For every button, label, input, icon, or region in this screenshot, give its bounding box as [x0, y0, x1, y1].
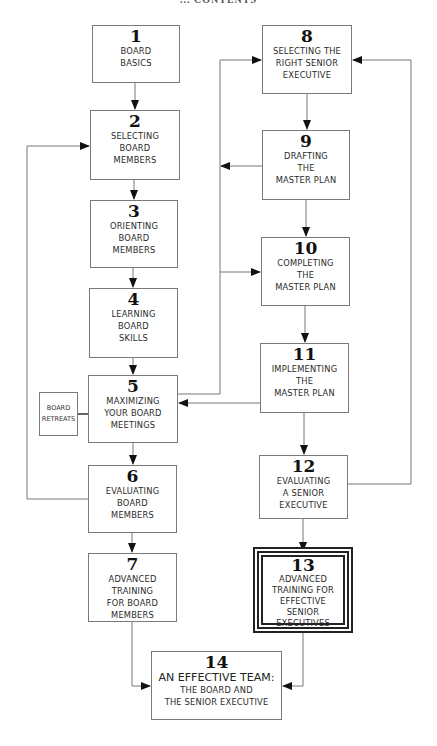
step-label: TRAINING [89, 585, 176, 597]
step-label: ADVANCED [263, 574, 343, 585]
step-13-advanced-training-senior-executives: 13 ADVANCED TRAINING FOR EFFECTIVE SENIO… [253, 547, 353, 633]
step-label: A SENIOR [260, 487, 347, 499]
step-label: BOARD [93, 45, 179, 57]
step-label: LEARNING [90, 308, 177, 320]
step-label: BOARD [89, 497, 176, 509]
step-label: BASICS [93, 57, 179, 69]
step-label: ADVANCED [89, 573, 176, 585]
border-ring: 13 ADVANCED TRAINING FOR EFFECTIVE SENIO… [261, 555, 345, 625]
step-label: MASTER PLAN [263, 174, 349, 186]
step-label: BOARD [91, 142, 179, 154]
step-number: 13 [263, 557, 343, 574]
step-number: 11 [261, 346, 348, 363]
step-label: EXECUTIVES [263, 618, 343, 629]
step-number: 6 [89, 468, 176, 485]
step-number: 1 [93, 28, 179, 45]
border-ring: 13 ADVANCED TRAINING FOR EFFECTIVE SENIO… [257, 551, 349, 629]
step-label: DRAFTING [263, 150, 349, 162]
step-label: SELECTING THE [263, 45, 351, 57]
step-label: EXECUTIVE [260, 499, 347, 511]
step-9-drafting-master-plan: 9 DRAFTING THE MASTER PLAN [262, 130, 350, 200]
step-label: YOUR BOARD [89, 407, 177, 419]
step-label: SELECTING [91, 130, 179, 142]
step-label: FOR BOARD [89, 597, 176, 609]
step-1-board-basics: 1 BOARD BASICS [92, 25, 180, 83]
note-label: RETREATS [40, 414, 77, 425]
step-label: RIGHT SENIOR [263, 57, 351, 69]
step-label: EFFECTIVE SENIOR [263, 596, 343, 618]
step-2-selecting-board-members: 2 SELECTING BOARD MEMBERS [90, 110, 180, 180]
note-label: BOARD [40, 403, 77, 414]
step-label: SKILLS [90, 332, 177, 344]
board-retreats-note: BOARD RETREATS [39, 392, 78, 436]
step-number: 7 [89, 556, 176, 573]
step-label: MEMBERS [89, 509, 176, 521]
step-label: MASTER PLAN [262, 281, 349, 293]
step-10-completing-master-plan: 10 COMPLETING THE MASTER PLAN [261, 237, 350, 306]
step-label: MAXIMIZING [89, 395, 177, 407]
step-6-evaluating-board-members: 6 EVALUATING BOARD MEMBERS [88, 465, 177, 533]
step-label: ORIENTING [91, 220, 177, 232]
step-label: MEMBERS [91, 154, 179, 166]
step-label: THE SENIOR EXECUTIVE [152, 696, 281, 708]
step-4-learning-board-skills: 4 LEARNING BOARD SKILLS [89, 288, 178, 358]
step-label: THE [263, 162, 349, 174]
step-label: EVALUATING [260, 475, 347, 487]
step-label: COMPLETING [262, 257, 349, 269]
step-11-implementing-master-plan: 11 IMPLEMENTING THE MASTER PLAN [260, 343, 349, 413]
step-label: THE [261, 375, 348, 387]
step-label: AN EFFECTIVE TEAM: [152, 671, 281, 684]
step-label: EXECUTIVE [263, 69, 351, 81]
step-number: 4 [90, 291, 177, 308]
step-12-evaluating-senior-executive: 12 EVALUATING A SENIOR EXECUTIVE [259, 455, 348, 519]
step-label: MASTER PLAN [261, 387, 348, 399]
step-number: 8 [263, 28, 351, 45]
step-14-effective-team: 14 AN EFFECTIVE TEAM: THE BOARD AND THE … [151, 651, 282, 720]
step-label: MEETINGS [89, 419, 177, 431]
connector-lines [0, 0, 437, 746]
step-number: 14 [152, 654, 281, 671]
step-label: MEMBERS [89, 609, 176, 621]
step-label: THE [262, 269, 349, 281]
step-label: BOARD [91, 232, 177, 244]
step-3-orienting-board-members: 3 ORIENTING BOARD MEMBERS [90, 200, 178, 268]
step-number: 3 [91, 203, 177, 220]
step-7-advanced-training-board-members: 7 ADVANCED TRAINING FOR BOARD MEMBERS [88, 553, 177, 622]
step-label: MEMBERS [91, 244, 177, 256]
step-number: 10 [262, 240, 349, 257]
step-label: EVALUATING [89, 485, 176, 497]
step-5-maximizing-board-meetings: 5 MAXIMIZING YOUR BOARD MEETINGS [88, 375, 178, 443]
step-number: 12 [260, 458, 347, 475]
step-number: 2 [91, 113, 179, 130]
step-label: IMPLEMENTING [261, 363, 348, 375]
step-8-selecting-senior-executive: 8 SELECTING THE RIGHT SENIOR EXECUTIVE [262, 25, 352, 94]
step-number: 9 [263, 133, 349, 150]
step-label: BOARD [90, 320, 177, 332]
step-label: TRAINING FOR [263, 585, 343, 596]
step-label: THE BOARD AND [152, 684, 281, 696]
step-number: 5 [89, 378, 177, 395]
